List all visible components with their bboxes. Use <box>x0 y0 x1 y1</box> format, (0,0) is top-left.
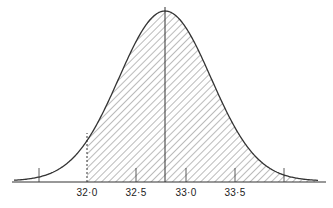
tick-label-33-5: 33·5 <box>224 187 245 198</box>
shaded-area <box>14 11 318 182</box>
normal-curve-diagram <box>0 0 333 208</box>
tick-label-33-0: 33·0 <box>175 187 196 198</box>
tick-label-32-0: 32·0 <box>76 187 97 198</box>
tick-label-32-5: 32·5 <box>125 187 146 198</box>
